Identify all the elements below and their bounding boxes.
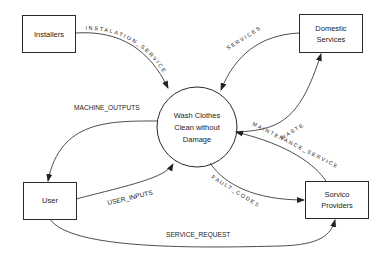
process-label-line3: Damage [183, 135, 211, 144]
flow-installation-service[interactable]: INSTALATION_SERVICE [76, 25, 168, 88]
user-label: User [42, 196, 58, 205]
services-label: SERVICES [225, 25, 262, 51]
flow-service-request[interactable]: SERVICE_REQUEST [50, 219, 335, 247]
installers-label: Installers [34, 30, 64, 39]
process-label-line1: Wash Clothes [174, 111, 221, 120]
user-inputs-label: USER_INPUTS [107, 189, 154, 207]
process-label-line2: Clean without [174, 123, 220, 132]
machine-outputs-label: MACHINE_OUTPUTS [74, 104, 140, 112]
entity-service-providers[interactable]: Sorvico Providers [306, 182, 369, 219]
diagram-canvas: Wash Clothes Clean without Damage Instal… [0, 0, 378, 259]
service-providers-label-line2: Providers [321, 201, 353, 210]
service-request-label: SERVICE_REQUEST [166, 231, 230, 239]
entity-installers[interactable]: Installers [23, 16, 76, 53]
flow-waste[interactable] [237, 54, 321, 132]
flow-machine-outputs[interactable]: MACHINE_OUTPUTS [48, 104, 157, 181]
entity-domestic-services[interactable]: Domestic Services [300, 15, 363, 53]
process-wash-clothes[interactable]: Wash Clothes Clean without Damage [157, 87, 237, 167]
entity-user[interactable]: User [24, 183, 77, 220]
service-providers-label-line1: Sorvico [324, 190, 349, 199]
fault-codes-label: FAULT_CODES [210, 174, 261, 209]
flow-user-inputs[interactable] [76, 164, 173, 199]
domestic-label-line1: Domestic [315, 24, 347, 33]
domestic-label-line2: Services [317, 35, 346, 44]
